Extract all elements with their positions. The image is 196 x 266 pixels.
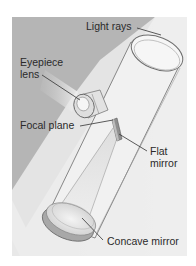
label-focal-plane: Focal plane: [20, 120, 74, 131]
telescope-diagram: Light rays Eyepiece lens Focal plane Fla…: [0, 0, 196, 266]
label-eyepiece-line1: Eyepiece: [20, 57, 63, 68]
label-flat-line2: mirror: [150, 158, 177, 169]
label-light-rays: Light rays: [86, 21, 132, 32]
label-eyepiece-line2: lens: [20, 69, 39, 80]
label-flat-line1: Flat: [150, 146, 168, 157]
telescope-illustration: [0, 0, 196, 266]
label-concave-mirror: Concave mirror: [107, 236, 179, 247]
